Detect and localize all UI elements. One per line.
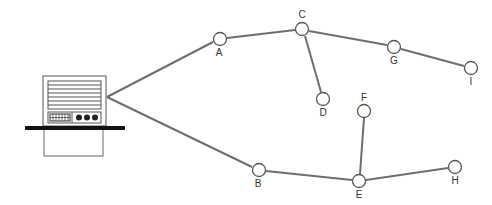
node-label-B: B bbox=[255, 178, 262, 189]
edge-C-G bbox=[309, 31, 387, 45]
edge-root-B bbox=[107, 97, 252, 167]
node-D[interactable]: D bbox=[317, 93, 330, 119]
edge-G-I bbox=[401, 49, 464, 66]
edge-B-E bbox=[266, 171, 352, 180]
node-I[interactable]: I bbox=[465, 62, 478, 88]
edge-C-D bbox=[305, 36, 321, 92]
edges bbox=[107, 30, 464, 180]
node-label-F: F bbox=[361, 92, 367, 103]
node-label-A: A bbox=[216, 47, 223, 58]
network-diagram: A B C D E F G H bbox=[0, 0, 492, 205]
node-G[interactable]: G bbox=[388, 41, 401, 67]
node-label-I: I bbox=[470, 76, 473, 87]
node-B[interactable]: B bbox=[253, 164, 266, 190]
node-F[interactable]: F bbox=[358, 92, 371, 118]
node-C[interactable]: C bbox=[296, 9, 309, 36]
edge-A-C bbox=[227, 30, 295, 38]
node-label-D: D bbox=[319, 107, 326, 118]
node-E[interactable]: E bbox=[353, 175, 366, 201]
node-label-H: H bbox=[451, 175, 458, 186]
edge-E-H bbox=[366, 168, 448, 180]
node-H[interactable]: H bbox=[449, 161, 462, 187]
node-label-E: E bbox=[356, 189, 363, 200]
node-label-G: G bbox=[390, 55, 398, 66]
node-label-C: C bbox=[298, 9, 305, 20]
computer-icon bbox=[25, 76, 125, 156]
node-A[interactable]: A bbox=[214, 33, 227, 59]
edge-E-F bbox=[360, 118, 364, 174]
edge-root-A bbox=[107, 42, 213, 97]
